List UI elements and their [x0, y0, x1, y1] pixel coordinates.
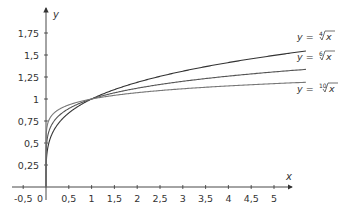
- x-tick-label: 1: [89, 193, 95, 204]
- svg-text:x: x: [328, 83, 335, 94]
- y-tick-label: 1: [33, 94, 39, 105]
- x-tick-label: 2,5: [152, 193, 167, 204]
- y-tick-label: 0,5: [24, 138, 39, 149]
- x-tick-label: 1,5: [107, 193, 122, 204]
- x-axis-label: x: [285, 171, 292, 182]
- y-tick-label: 0,75: [18, 116, 39, 127]
- svg-text:x: x: [325, 51, 332, 62]
- ticks: -0,500,511,522,533,544,550,250,50,7511,2…: [14, 28, 277, 205]
- curve-root-6: [46, 69, 306, 187]
- y-axis-label: y: [52, 9, 60, 20]
- svg-text:y =: y =: [296, 83, 314, 94]
- svg-text:6: 6: [319, 50, 323, 57]
- curve-label-root-6: y = 6x: [296, 50, 335, 62]
- x-tick-label: 3,5: [198, 193, 213, 204]
- curve-label-root-4: y = 4x: [296, 30, 335, 42]
- x-tick-label: 0: [37, 193, 43, 204]
- x-tick-label: -0,5: [14, 193, 33, 204]
- y-tick-label: 0,25: [18, 160, 39, 171]
- svg-text:x: x: [325, 31, 332, 42]
- curve-label-root-10: y = 10x: [296, 82, 338, 94]
- axes: xy: [12, 8, 292, 200]
- svg-text:10: 10: [319, 82, 327, 89]
- svg-text:y =: y =: [296, 51, 314, 62]
- curves: [46, 51, 306, 187]
- x-tick-label: 5: [271, 193, 277, 204]
- svg-text:4: 4: [319, 30, 323, 37]
- curve-root-4: [46, 51, 306, 187]
- y-tick-label: 1,5: [24, 50, 39, 61]
- x-tick-label: 4,5: [244, 193, 259, 204]
- x-tick-label: 3: [180, 193, 186, 204]
- y-tick-label: 1,75: [18, 28, 39, 39]
- y-tick-label: 1,25: [18, 72, 39, 83]
- x-tick-label: 0,5: [61, 193, 76, 204]
- x-tick-label: 4: [225, 193, 231, 204]
- curve-labels: y = 4xy = 6xy = 10x: [296, 30, 338, 94]
- x-tick-label: 2: [134, 193, 140, 204]
- svg-text:y =: y =: [296, 31, 314, 42]
- root-functions-chart: xy -0,500,511,522,533,544,550,250,50,751…: [0, 0, 340, 216]
- curve-root-10: [46, 82, 306, 187]
